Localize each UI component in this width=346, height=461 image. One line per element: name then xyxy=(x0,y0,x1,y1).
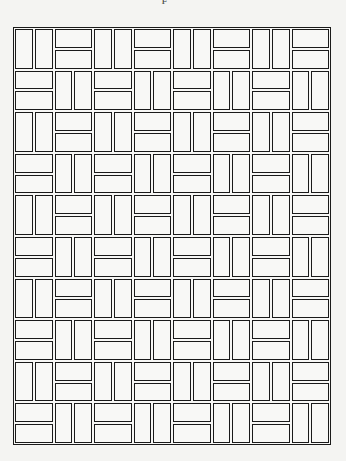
brick xyxy=(232,403,250,443)
brick xyxy=(94,112,112,152)
brick xyxy=(173,424,211,443)
horizontal-brick-pair xyxy=(172,236,212,278)
brick xyxy=(15,403,53,422)
brick xyxy=(252,279,270,319)
brick xyxy=(134,279,172,298)
horizontal-brick-pair xyxy=(133,111,173,153)
horizontal-brick-pair xyxy=(14,236,54,278)
brick xyxy=(193,195,211,235)
vertical-brick-pair xyxy=(212,153,252,195)
vertical-brick-pair xyxy=(172,111,212,153)
brick xyxy=(292,195,330,214)
brick xyxy=(134,216,172,235)
brick xyxy=(15,112,33,152)
brick xyxy=(292,299,330,318)
vertical-brick-pair xyxy=(291,402,331,444)
horizontal-brick-pair xyxy=(133,194,173,236)
brick xyxy=(173,258,211,277)
brick xyxy=(252,403,290,422)
brick xyxy=(74,237,92,277)
brick xyxy=(213,403,231,443)
vertical-brick-pair xyxy=(291,236,331,278)
brick xyxy=(94,341,132,360)
brick xyxy=(15,279,33,319)
vertical-brick-pair xyxy=(212,70,252,112)
brick xyxy=(173,112,191,152)
horizontal-brick-pair xyxy=(172,153,212,195)
brick xyxy=(35,362,53,402)
brick xyxy=(15,258,53,277)
vertical-brick-pair xyxy=(133,70,173,112)
brick xyxy=(55,71,73,111)
brick xyxy=(134,112,172,131)
vertical-brick-pair xyxy=(54,402,94,444)
vertical-brick-pair xyxy=(251,194,291,236)
brick xyxy=(213,383,251,402)
brick xyxy=(292,403,310,443)
vertical-brick-pair xyxy=(291,153,331,195)
brick xyxy=(153,403,171,443)
vertical-brick-pair xyxy=(93,278,133,320)
brick xyxy=(173,71,211,90)
vertical-brick-pair xyxy=(133,153,173,195)
brick xyxy=(134,50,172,69)
horizontal-brick-pair xyxy=(291,278,331,320)
vertical-brick-pair xyxy=(251,361,291,403)
brick xyxy=(55,320,73,360)
brick xyxy=(114,279,132,319)
brick xyxy=(252,71,290,90)
brick xyxy=(272,29,290,69)
horizontal-brick-pair xyxy=(212,28,252,70)
brick xyxy=(193,279,211,319)
brick xyxy=(74,320,92,360)
horizontal-brick-pair xyxy=(251,153,291,195)
brick xyxy=(35,29,53,69)
vertical-brick-pair xyxy=(14,28,54,70)
vertical-brick-pair xyxy=(93,194,133,236)
vertical-brick-pair xyxy=(212,236,252,278)
brick xyxy=(153,154,171,194)
horizontal-brick-pair xyxy=(212,361,252,403)
brick xyxy=(193,362,211,402)
basket-weave-grid xyxy=(13,27,331,445)
brick xyxy=(173,29,191,69)
horizontal-brick-pair xyxy=(172,402,212,444)
vertical-brick-pair xyxy=(172,278,212,320)
brick xyxy=(94,29,112,69)
brick xyxy=(134,195,172,214)
horizontal-brick-pair xyxy=(93,153,133,195)
brick xyxy=(292,112,330,131)
brick xyxy=(292,362,330,381)
brick xyxy=(173,403,211,422)
brick xyxy=(272,112,290,152)
brick xyxy=(272,195,290,235)
brick xyxy=(55,133,93,152)
brick xyxy=(35,195,53,235)
brick xyxy=(232,320,250,360)
brick xyxy=(213,237,231,277)
brick xyxy=(252,175,290,194)
vertical-brick-pair xyxy=(291,319,331,361)
brick xyxy=(213,279,251,298)
brick xyxy=(213,71,231,111)
vertical-brick-pair xyxy=(251,111,291,153)
brick xyxy=(15,341,53,360)
brick xyxy=(134,71,152,111)
brick xyxy=(213,29,251,48)
vertical-brick-pair xyxy=(172,194,212,236)
brick xyxy=(94,237,132,256)
brick xyxy=(173,195,191,235)
brick xyxy=(153,237,171,277)
brick xyxy=(213,299,251,318)
brick xyxy=(94,195,112,235)
brick xyxy=(252,195,270,235)
brick xyxy=(173,154,211,173)
brick xyxy=(292,237,310,277)
brick xyxy=(74,71,92,111)
brick xyxy=(292,383,330,402)
brick xyxy=(55,216,93,235)
vertical-brick-pair xyxy=(172,361,212,403)
brick xyxy=(252,112,270,152)
vertical-brick-pair xyxy=(14,361,54,403)
brick xyxy=(232,237,250,277)
